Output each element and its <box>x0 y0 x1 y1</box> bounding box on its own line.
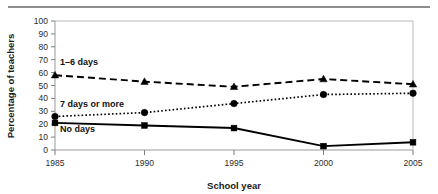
data-point-marker <box>410 139 416 145</box>
x-axis-title: School year <box>207 180 261 191</box>
line-chart: 0102030405060708090100 19851990199520002… <box>0 0 438 194</box>
data-point-marker <box>320 91 327 98</box>
data-point-marker <box>52 113 59 120</box>
chart-svg: 0102030405060708090100 19851990199520002… <box>0 0 438 194</box>
data-point-marker <box>141 109 148 116</box>
data-point-marker <box>231 100 238 107</box>
series-annotations: 1–6 days7 days or moreNo days <box>60 57 124 134</box>
y-tick-label: 60 <box>39 68 49 78</box>
data-point-marker <box>52 120 58 126</box>
y-tick-label: 30 <box>39 106 49 116</box>
x-tick-label: 1990 <box>135 158 154 168</box>
y-tick-label: 10 <box>39 132 49 142</box>
y-tick-label: 100 <box>34 16 48 26</box>
y-axis-title: Percentage of teachers <box>5 34 16 139</box>
y-tick-label: 70 <box>39 55 49 65</box>
series-3 <box>52 120 416 149</box>
series-label-2: 7 days or more <box>60 99 124 109</box>
x-tick-label: 2000 <box>314 158 333 168</box>
y-tick-label: 80 <box>39 42 49 52</box>
data-point-marker <box>321 143 327 149</box>
y-tick-label: 40 <box>39 93 49 103</box>
series-layer <box>51 71 416 149</box>
data-point-marker <box>410 90 417 97</box>
x-tick-label: 1995 <box>225 158 244 168</box>
x-tick-label: 1985 <box>46 158 65 168</box>
x-axis-ticks: 19851990199520002005 <box>46 150 423 168</box>
x-tick-label: 2005 <box>404 158 423 168</box>
series-label-1: 1–6 days <box>60 57 98 67</box>
y-tick-label: 90 <box>39 29 49 39</box>
y-axis-ticks: 0102030405060708090100 <box>34 16 55 155</box>
series-1 <box>51 71 416 89</box>
y-tick-label: 0 <box>43 145 48 155</box>
data-point-marker <box>142 123 148 129</box>
y-tick-label: 50 <box>39 81 49 91</box>
series-label-3: No days <box>60 124 95 134</box>
y-tick-label: 20 <box>39 119 49 129</box>
data-point-marker <box>231 125 237 131</box>
